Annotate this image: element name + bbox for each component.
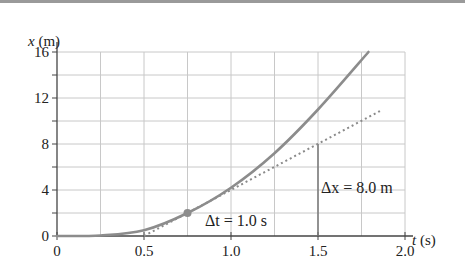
y-tick-label: 12 [34,90,49,106]
y-tick-label: 8 [42,136,50,152]
position-time-chart: 00.51.01.52.00481216 x (m) t (s) Δt = 1.… [0,0,465,277]
x-tick-label: 1.5 [309,243,328,259]
x-tick-label: 0 [53,243,61,259]
tangent-point-marker [184,209,192,217]
grid [57,52,405,236]
y-tick-label: 0 [42,228,50,244]
delta-t-annotation: Δt = 1.0 s [205,212,267,229]
delta-x-annotation: Δx = 8.0 m [321,179,393,196]
x-axis-label: t (s) [412,232,436,249]
x-tick-label: 0.5 [135,243,154,259]
x-tick-label: 1.0 [222,243,241,259]
y-tick-label: 4 [42,182,50,198]
y-axis-label: x (m) [27,33,60,50]
